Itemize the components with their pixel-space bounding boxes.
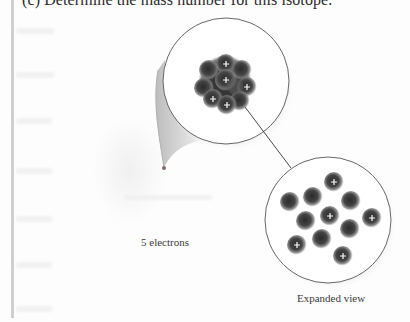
neutron [296,211,316,231]
neutron [280,192,300,212]
neutron [303,187,323,207]
neutron [340,219,360,239]
electrons-label: 5 electrons [141,236,189,248]
atom-figure [0,0,410,322]
expanded-view-label: Expanded view [297,292,365,304]
neutron [341,191,361,211]
textbook-page: (c) Determine the mass number for this i… [0,0,410,322]
electron-dot [162,166,166,170]
neutron [312,229,332,249]
